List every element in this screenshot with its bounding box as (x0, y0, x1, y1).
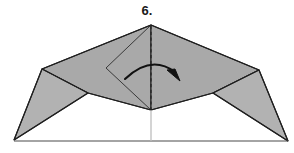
origami-figure: 6. (0, 0, 294, 153)
origami-diagram-svg (0, 0, 294, 153)
